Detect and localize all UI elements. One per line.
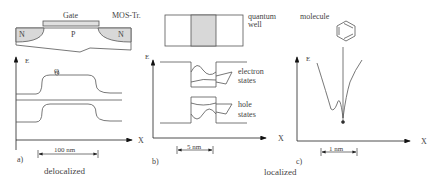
potential-curve	[317, 60, 362, 118]
localized-state-dot	[342, 121, 345, 124]
panel-b-label: b)	[152, 157, 159, 166]
panel-c-label: c)	[296, 157, 302, 166]
panel-a-label: a)	[17, 155, 23, 164]
x-axis-c-label: X	[421, 137, 427, 146]
electron-states-label-line1: electron	[238, 67, 264, 76]
hole-states-label-line2: states	[238, 110, 256, 119]
conduction-band-b	[160, 62, 247, 87]
electron-pointer	[216, 72, 232, 84]
molecule-label: molecule	[300, 12, 329, 21]
valence-band-a	[16, 104, 122, 122]
well-layer	[191, 15, 216, 46]
benzene-ring	[337, 21, 355, 41]
scale-label-b: 5 nm	[187, 143, 201, 152]
hole-states-label-line1: hole	[238, 100, 252, 109]
electron-states-label-line2: states	[238, 76, 256, 85]
scale-label-c: 1 nm	[329, 145, 343, 154]
electron-wavefunction	[191, 65, 216, 74]
hole-pointer	[216, 104, 232, 114]
n-region-right-label: N	[118, 30, 124, 39]
charge-q-label: Q	[54, 67, 59, 76]
gate-electrode	[43, 21, 99, 26]
y-axis-c-label: E	[306, 55, 310, 64]
panel-a-energy-plot	[16, 57, 132, 158]
scale-label-a: 100 nm	[54, 146, 75, 155]
gate-label: Gate	[63, 11, 78, 20]
p-region-label: P	[71, 30, 75, 39]
y-axis-a-label: E	[25, 57, 29, 66]
diagram-canvas	[0, 0, 436, 184]
hole-wavefunction	[191, 109, 216, 119]
localized-caption: localized	[264, 168, 296, 177]
mos-transistor-label: MOS-Tr.	[112, 11, 141, 20]
panel-c-energy-plot	[297, 47, 410, 156]
panel-c-molecule	[337, 21, 355, 41]
panel-b-quantum-well	[165, 15, 243, 46]
quantum-well-label-line2: well	[248, 20, 262, 29]
delocalized-caption: delocalized	[44, 167, 85, 176]
valence-band-b	[160, 97, 247, 123]
x-axis-a-label: X	[138, 136, 144, 145]
y-axis-b-label: E	[145, 53, 149, 62]
x-axis-b-label: X	[278, 134, 284, 143]
n-region-left-label: N	[19, 30, 25, 39]
conduction-band-a	[16, 75, 122, 94]
